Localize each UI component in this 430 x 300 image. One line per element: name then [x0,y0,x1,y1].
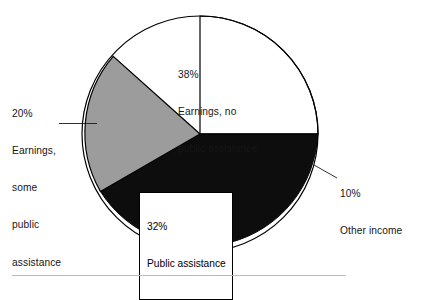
slice-percent-earnings-some-public-assistance: 20% [12,108,61,120]
slice-percent-other-income: 10% [340,188,402,200]
slice-percent-earnings-no-public-assistance: 38% [178,69,257,81]
slice-desc-earnings-no-line1: Earnings, no [178,106,257,118]
slice-label-public-assistance: 32% Public assistance [139,192,233,300]
slice-percent-public-assistance: 32% [147,221,226,233]
slice-desc-public-assistance-line1: Public assistance [147,258,226,270]
slice-label-earnings-no-public-assistance: 38% Earnings, no public assistance [178,44,257,180]
slice-desc-earnings-some-line4: assistance [12,257,61,269]
slice-desc-earnings-some-line3: public [12,219,61,231]
bottom-divider-rule [12,275,346,276]
slice-label-other-income: 10% Other income [340,163,402,262]
slice-desc-earnings-some-line1: Earnings, [12,145,61,157]
slice-desc-other-income-line1: Other income [340,225,402,237]
slice-desc-earnings-some-line2: some [12,182,61,194]
slice-label-earnings-some-public-assistance: 20% Earnings, some public assistance [12,83,61,294]
leader-line-other-income [314,165,337,178]
slice-desc-earnings-no-line2: public assistance [178,143,257,155]
